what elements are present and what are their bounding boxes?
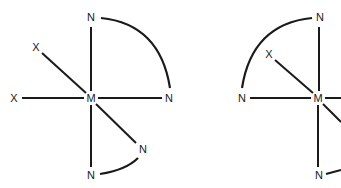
n-lowerright-label: N: [139, 143, 147, 155]
n-top-label: N: [316, 11, 324, 23]
x-left-label: X: [10, 92, 18, 104]
n-left-label: N: [238, 92, 246, 104]
metal-center-label: M: [313, 92, 322, 104]
n-right-label: N: [165, 92, 173, 104]
bond-m-x-upper: [275, 60, 313, 93]
arc-bottom-cropped: [326, 170, 341, 174]
chelate-arc-top-right: [101, 18, 170, 88]
bond-m-n-lowerright: [96, 104, 136, 143]
chelate-arc-top-left: [242, 18, 312, 88]
coordination-diagram: M N N X X N N M N N X N: [0, 0, 341, 188]
n-top-label: N: [87, 11, 95, 23]
bond-m-lowerright-cropped: [323, 104, 341, 122]
right-complex: M N N X N: [238, 11, 341, 181]
bond-m-x-upper: [42, 53, 86, 93]
chelate-arc-lower: [100, 158, 138, 174]
left-complex: M N N X X N N: [10, 11, 173, 181]
x-upper-label: X: [32, 41, 40, 53]
n-bottom-label: N: [87, 169, 95, 181]
metal-center-label: M: [86, 92, 95, 104]
n-bottom-label: N: [315, 169, 323, 181]
x-upper-label: X: [265, 48, 273, 60]
